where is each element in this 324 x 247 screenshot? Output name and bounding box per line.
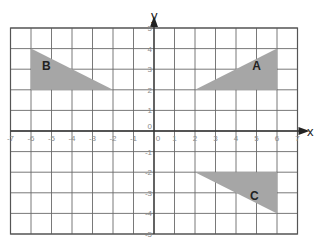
triangle-label: C [250,189,259,203]
x-axis-label: x [307,124,314,139]
y-tick-label: -1 [145,148,153,157]
y-tick-label: 1 [148,106,153,115]
y-tick-label: -2 [145,168,153,177]
x-tick-label: 4 [234,134,239,143]
triangle-label: B [42,59,51,73]
x-tick-label: -3 [89,134,97,143]
x-tick-label: 5 [254,134,259,143]
x-tick-label: 1 [172,134,177,143]
x-tick-label: 7 [295,134,300,143]
x-tick-label: 3 [213,134,218,143]
x-tick-label: -5 [48,134,56,143]
x-tick-label: 2 [193,134,198,143]
coordinate-grid: ABC -7-6-5-4-3-2-101234567543210-1-2-3-4… [0,0,324,247]
y-tick-label: 5 [148,24,153,33]
y-tick-label: 3 [148,65,153,74]
x-tick-label: 6 [275,134,280,143]
y-axis-label: y [151,8,158,23]
y-tick-label: 2 [148,86,153,95]
x-tick-label: -1 [130,134,138,143]
y-tick-label: 4 [148,45,153,54]
y-tick-label: -3 [145,189,153,198]
x-tick-label: -6 [27,134,35,143]
x-tick-label: -7 [7,134,15,143]
x-tick-label: -4 [68,134,76,143]
y-tick-label: 0 [148,122,153,131]
y-tick-label: -4 [145,209,153,218]
x-tick-label: -2 [109,134,117,143]
y-tick-label: -5 [145,230,153,239]
x-tick-label: 0 [156,134,161,143]
triangle-label: A [252,59,261,73]
